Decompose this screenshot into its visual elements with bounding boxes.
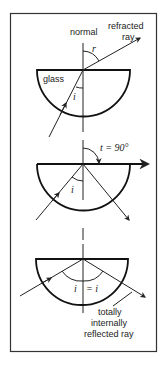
angle-equals-label: = i bbox=[86, 283, 98, 294]
incident-ray-arrow bbox=[52, 193, 59, 201]
angle-t-arc bbox=[83, 148, 99, 163]
angle-i-label: i bbox=[73, 91, 76, 102]
normal-label: normal bbox=[70, 27, 98, 37]
angle-i-arc-right bbox=[83, 271, 103, 281]
angle-i-label: i bbox=[71, 184, 74, 195]
panel-critical-angle: t = 90° i bbox=[36, 140, 148, 240]
glass-label: glass bbox=[43, 74, 65, 84]
angle-r-label: r bbox=[92, 43, 96, 54]
angle-i-arc bbox=[76, 87, 83, 88]
angle-i-arc-left bbox=[62, 271, 83, 281]
angle-t-label: t = 90° bbox=[100, 142, 129, 153]
panel-total-internal-reflection: i = i totally internally reflected ray bbox=[20, 244, 145, 339]
tir-label-3: reflected ray bbox=[84, 329, 134, 339]
angle-r-arc bbox=[83, 51, 99, 61]
reflected-ray bbox=[83, 164, 129, 220]
incident-ray bbox=[36, 164, 83, 220]
incident-ray-arrow bbox=[42, 278, 51, 283]
refracted-label-1: refracted bbox=[108, 21, 144, 31]
tir-label-2: internally bbox=[91, 318, 128, 328]
angle-i-label-left: i bbox=[74, 283, 77, 294]
tir-label-1: totally bbox=[98, 307, 122, 317]
angle-i-arc bbox=[72, 177, 83, 181]
leader-line bbox=[113, 292, 132, 306]
panel-refraction: normal refracted ray glass r i bbox=[37, 21, 144, 137]
refracted-label-2: ray bbox=[122, 32, 135, 42]
optics-diagram: normal refracted ray glass r i t = 90° i… bbox=[0, 0, 166, 365]
glass-block bbox=[36, 259, 128, 305]
